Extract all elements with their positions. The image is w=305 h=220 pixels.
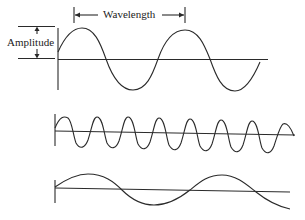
wave3-curve: [55, 174, 290, 209]
wave-diagram: [0, 0, 305, 220]
wavelength-arrowhead-right: [179, 13, 184, 18]
amplitude-label: Amplitude: [7, 37, 54, 48]
wavelength-label: Wavelength: [103, 9, 155, 20]
amplitude-arrowhead-down: [35, 54, 40, 59]
wavelength-arrowhead-left: [75, 13, 80, 18]
amplitude-arrowhead-up: [35, 27, 40, 32]
